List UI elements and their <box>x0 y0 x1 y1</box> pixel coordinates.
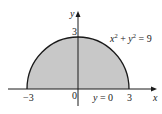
circle-equation-label: x2 + y2 = 9 <box>109 32 152 44</box>
y-axis-label: y <box>69 8 75 19</box>
x-tick-3: 3 <box>127 92 132 103</box>
eq-plus: + <box>118 33 129 44</box>
line-eq-rest: = 0 <box>97 92 113 103</box>
x-tick-neg3: −3 <box>23 92 34 103</box>
x-axis-label: x <box>152 92 158 103</box>
y-tick-3: 3 <box>72 26 77 37</box>
origin-label: 0 <box>72 90 77 101</box>
y-axis-arrow-icon <box>76 11 81 17</box>
x-axis-arrow-icon <box>151 87 157 92</box>
half-disk-diagram: y x 3 −3 0 3 x2 + y2 = 9 y = 0 <box>0 0 162 114</box>
baseline-equation-label: y = 0 <box>92 92 113 103</box>
eq-rest: = 9 <box>136 33 152 44</box>
